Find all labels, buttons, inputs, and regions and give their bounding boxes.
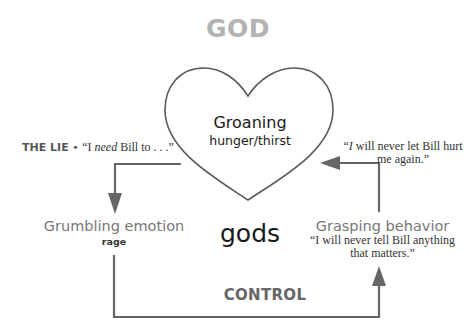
diagram-graphics bbox=[0, 0, 476, 335]
god-title: GOD bbox=[0, 14, 476, 43]
cycle-diagram: GOD Groaning hunger/thirst THE LIE • “I … bbox=[0, 0, 476, 335]
heart-subtitle: hunger/thirst bbox=[185, 133, 315, 148]
arrow-up-icon bbox=[372, 266, 386, 286]
the-lie-quote: “I need Bill to . . .” bbox=[82, 140, 174, 154]
lie-connector-line bbox=[115, 164, 181, 196]
control-label: CONTROL bbox=[180, 286, 350, 304]
grasping-quote: “I will never tell Bill anything that ma… bbox=[300, 234, 465, 260]
grumbling-title: Grumbling emotion bbox=[26, 218, 202, 234]
heart-title: Groaning bbox=[185, 113, 315, 132]
arrow-down-icon bbox=[108, 193, 122, 214]
the-lie-label: THE LIE bbox=[22, 141, 69, 154]
arrow-left-icon bbox=[320, 156, 340, 170]
gods-center-label: gods bbox=[190, 219, 310, 248]
never-hurt-quote: “I will never let Bill hurt me again.” bbox=[338, 140, 468, 166]
lie-quote-rest: Bill to . . .” bbox=[117, 140, 174, 154]
bullet-icon: • bbox=[72, 141, 79, 154]
lie-quote-emphasis: need bbox=[95, 140, 118, 154]
lie-quote-open: “I bbox=[82, 140, 94, 154]
grumbling-subtitle: rage bbox=[26, 236, 202, 247]
return-connector-line bbox=[337, 163, 379, 212]
the-lie-label-row: THE LIE • “I need Bill to . . .” bbox=[22, 140, 174, 155]
grasping-title: Grasping behavior bbox=[310, 218, 455, 234]
never-hurt-rest: will never let Bill hurt me again.” bbox=[353, 139, 463, 166]
